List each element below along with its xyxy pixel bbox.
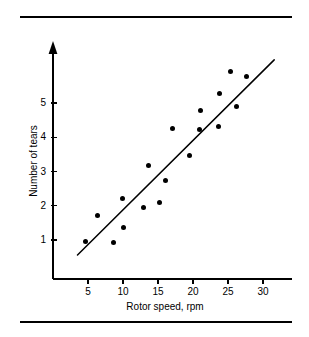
data-point: [157, 200, 162, 205]
y-axis-arrow-icon: [49, 41, 58, 54]
x-tick-label: 30: [251, 286, 275, 298]
data-point: [111, 240, 116, 245]
data-point: [198, 108, 203, 113]
data-point: [121, 225, 126, 230]
x-tick-label: 10: [111, 286, 135, 298]
top-horizontal-rule: [20, 16, 292, 18]
data-point: [217, 91, 222, 96]
data-point: [244, 74, 249, 79]
data-point: [216, 124, 221, 129]
regression-line: [78, 60, 275, 255]
data-point: [234, 104, 239, 109]
bottom-horizontal-rule: [20, 321, 292, 323]
regression-line-group: [78, 60, 275, 255]
data-point: [170, 126, 175, 131]
data-point: [163, 178, 168, 183]
data-point: [83, 239, 88, 244]
x-axis-label: Rotor speed, rpm: [53, 301, 277, 313]
x-tick-label: 25: [216, 286, 240, 298]
data-point: [187, 153, 192, 158]
x-tick-label: 20: [181, 286, 205, 298]
y-axis-label: Number of tears: [28, 76, 40, 246]
x-tick-label: 5: [76, 286, 100, 298]
data-point: [120, 196, 125, 201]
data-point: [228, 69, 233, 74]
figure-container: 51015202530 12345 Rotor speed, rpm Numbe…: [0, 0, 309, 337]
data-point: [197, 127, 202, 132]
data-point: [146, 163, 151, 168]
ticks-group: [51, 103, 263, 284]
x-tick-label: 15: [146, 286, 170, 298]
data-point: [141, 205, 146, 210]
data-point: [95, 213, 100, 218]
